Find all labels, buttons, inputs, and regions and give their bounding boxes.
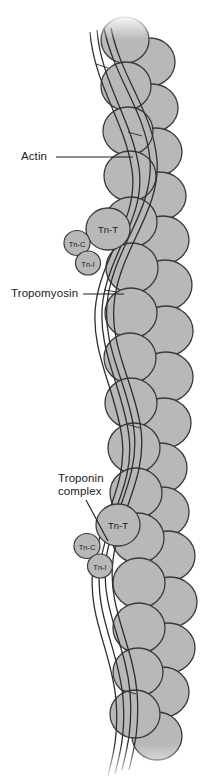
actin-monomer xyxy=(105,288,157,338)
bottom-fade-mask xyxy=(60,744,210,781)
actin-monomer xyxy=(101,62,151,110)
tropomyosin-label: Tropomyosin xyxy=(11,287,78,300)
actin-monomer xyxy=(113,558,165,608)
actin-monomer xyxy=(105,378,157,428)
tropomyosin-crosslink xyxy=(96,64,108,68)
troponin-label-line1: Troponin xyxy=(58,472,104,484)
actin-monomer xyxy=(106,243,158,293)
actin-monomer xyxy=(113,648,163,696)
actin-label: Actin xyxy=(21,150,47,163)
tn-c-label: Tn-C xyxy=(79,543,96,552)
tn-t-label: Tn-T xyxy=(108,520,128,531)
tn-i-label: Tn-I xyxy=(81,260,94,269)
filament-diagram: Tn-T Tn-C Tn-I Tn-T Tn-C Tn-I xyxy=(0,0,210,781)
actin-filament-figure: Tn-T Tn-C Tn-I Tn-T Tn-C Tn-I Actin Trop… xyxy=(0,0,210,781)
troponin-label-line2: complex xyxy=(58,485,102,497)
top-fade-mask xyxy=(60,14,210,40)
actin-monomer xyxy=(110,690,160,738)
tn-i-label: Tn-I xyxy=(93,563,106,572)
troponin-complex-label: Troponin complex xyxy=(58,472,104,498)
tn-t-label: Tn-T xyxy=(98,224,118,235)
tn-c-label: Tn-C xyxy=(69,240,86,249)
actin-monomer xyxy=(104,333,156,383)
